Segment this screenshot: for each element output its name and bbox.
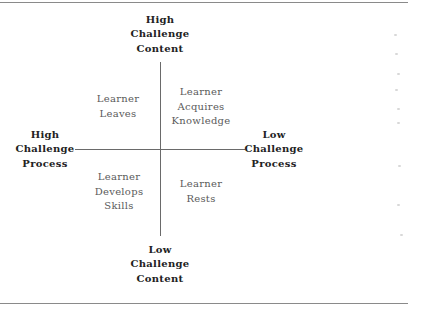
quadrant-top-right-line-2: Acquires — [156, 100, 246, 115]
axis-label-bottom-line-2: Challenge — [110, 257, 210, 271]
axis-label-top-line-2: Challenge — [110, 27, 210, 41]
horizontal-axis-line — [75, 149, 245, 150]
axis-label-top: High Challenge Content — [110, 13, 210, 56]
axis-label-bottom-line-1: Low — [110, 243, 210, 257]
axis-label-right-line-2: Challenge — [234, 142, 314, 156]
axis-label-left-line-3: Process — [5, 157, 85, 171]
axis-label-right: Low Challenge Process — [234, 128, 314, 171]
quadrant-bottom-right: Learner Rests — [161, 177, 241, 206]
quadrant-bottom-left-line-3: Skills — [79, 199, 159, 214]
quadrant-bottom-left-line-1: Learner — [79, 170, 159, 185]
scan-artifact — [394, 34, 397, 36]
scan-artifact — [400, 234, 403, 236]
top-rule — [0, 2, 408, 3]
quadrant-top-left-line-1: Learner — [78, 92, 158, 107]
quadrant-bottom-left-line-2: Develops — [79, 185, 159, 200]
scan-artifact — [397, 204, 400, 206]
quadrant-bottom-right-line-2: Rests — [161, 192, 241, 207]
axis-label-bottom: Low Challenge Content — [110, 243, 210, 286]
scan-artifact — [395, 53, 398, 55]
axis-label-left-line-1: High — [5, 128, 85, 142]
bottom-rule — [0, 303, 408, 304]
quadrant-bottom-left: Learner Develops Skills — [79, 170, 159, 214]
scan-artifact — [395, 89, 398, 91]
scan-artifact — [397, 73, 400, 75]
axis-label-right-line-3: Process — [234, 157, 314, 171]
axis-label-left: High Challenge Process — [5, 128, 85, 171]
axis-label-top-line-3: Content — [110, 42, 210, 56]
quadrant-top-left-line-2: Leaves — [78, 107, 158, 122]
scan-artifact — [398, 165, 401, 167]
scan-artifact — [397, 122, 400, 124]
scan-artifact — [397, 108, 400, 110]
quadrant-top-right-line-3: Knowledge — [156, 114, 246, 129]
axis-label-top-line-1: High — [110, 13, 210, 27]
quadrant-top-right-line-1: Learner — [156, 85, 246, 100]
quadrant-top-right: Learner Acquires Knowledge — [156, 85, 246, 129]
quadrant-top-left: Learner Leaves — [78, 92, 158, 121]
axis-label-right-line-1: Low — [234, 128, 314, 142]
quadrant-bottom-right-line-1: Learner — [161, 177, 241, 192]
axis-label-bottom-line-3: Content — [110, 272, 210, 286]
axis-label-left-line-2: Challenge — [5, 142, 85, 156]
